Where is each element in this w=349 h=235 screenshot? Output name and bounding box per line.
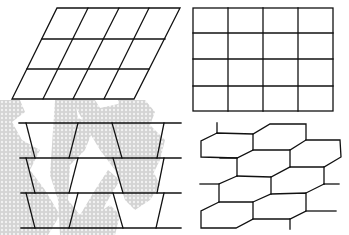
tilings-diagram — [0, 0, 349, 235]
square-grid — [193, 8, 333, 111]
figure-canvas — [0, 0, 349, 235]
parallelogram-grid — [12, 8, 180, 99]
watermark-background — [0, 100, 165, 235]
hexagonal-tiling — [200, 123, 341, 229]
